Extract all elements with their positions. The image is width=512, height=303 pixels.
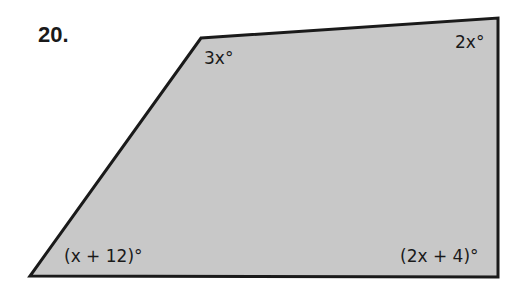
angle-label-top-right: 2x° [455,32,484,52]
angle-label-top-left: 3x° [204,48,233,68]
quadrilateral-shape [30,18,498,277]
angle-label-bottom-left: (x + 12)° [64,246,143,266]
angle-label-bottom-right: (2x + 4)° [400,246,479,266]
